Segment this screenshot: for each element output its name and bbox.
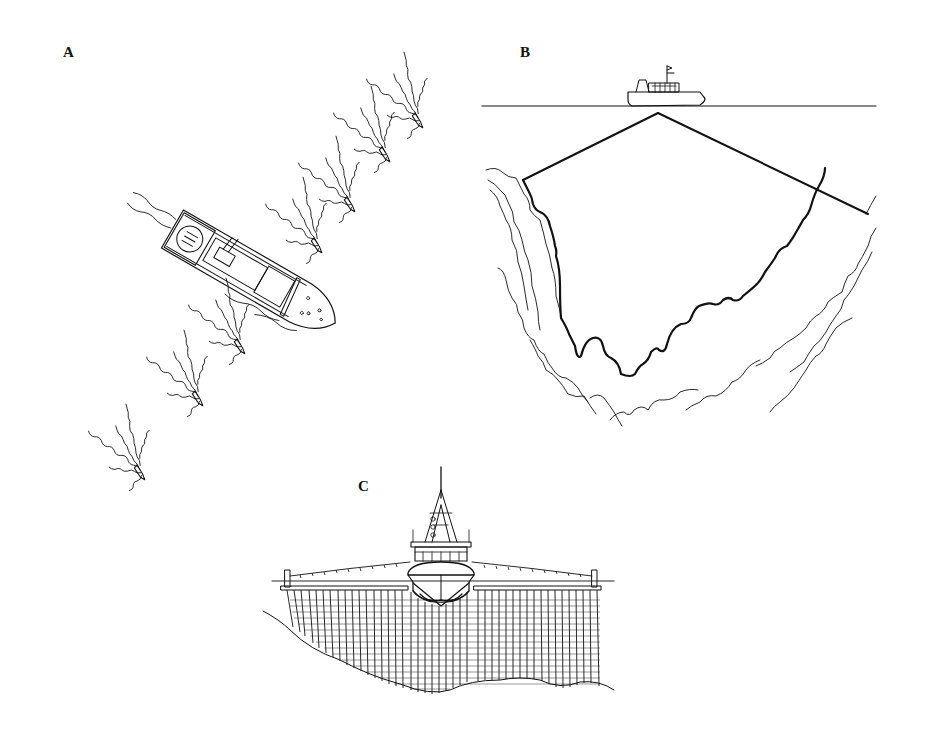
panel-a-illustration [73, 43, 451, 495]
panel-b-illustration [482, 66, 876, 426]
panel-c-illustration [263, 467, 614, 694]
figure-canvas [0, 0, 926, 733]
